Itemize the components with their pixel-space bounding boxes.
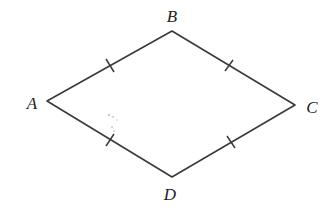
vertex-label-a: A xyxy=(26,94,38,113)
rhombus-svg: A B C D xyxy=(0,0,335,215)
tick-mark-ab xyxy=(106,59,114,72)
tick-mark-cd xyxy=(227,136,235,148)
tick-mark-da xyxy=(106,134,114,146)
rhombus-outline xyxy=(47,31,295,177)
scan-specks xyxy=(108,114,118,132)
vertex-label-b: B xyxy=(167,7,178,26)
tick-mark-bc xyxy=(225,60,233,71)
vertex-label-c: C xyxy=(306,98,318,117)
vertex-label-d: D xyxy=(163,185,177,204)
rhombus-diagram: A B C D xyxy=(0,0,335,215)
